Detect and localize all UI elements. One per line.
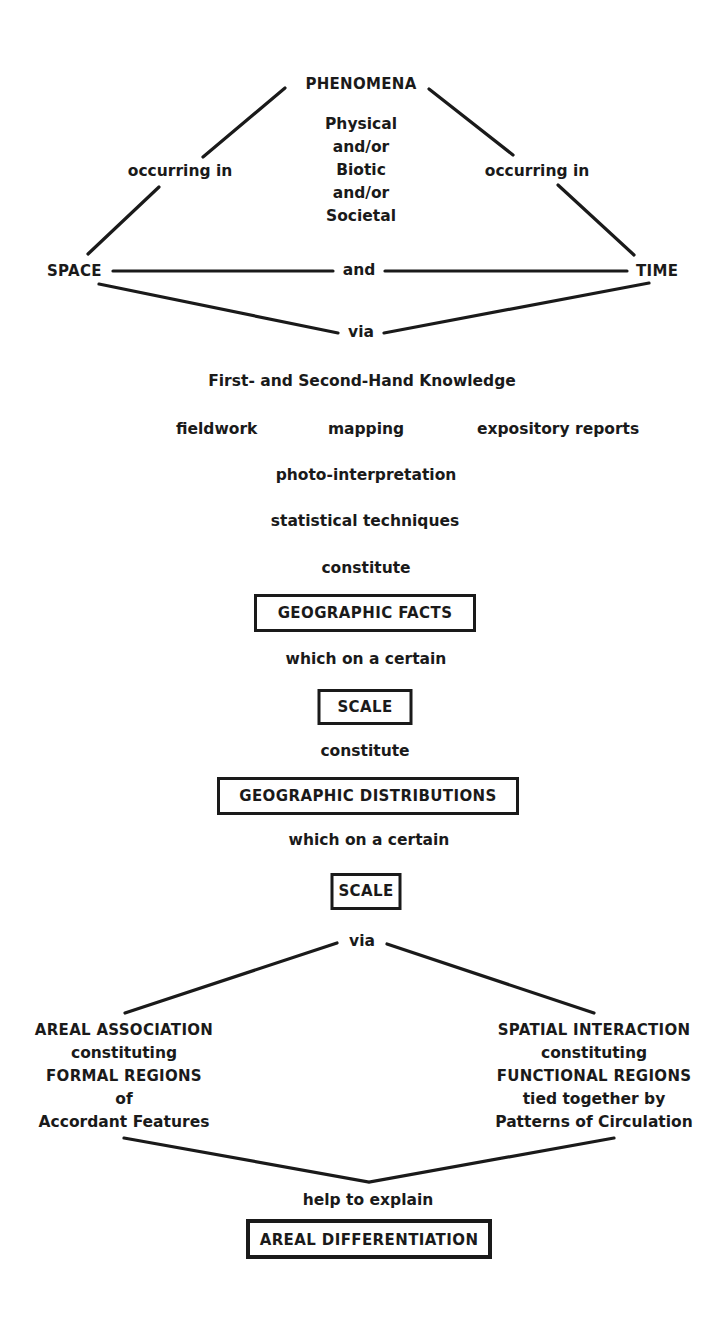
phenomena-type-biotic: Biotic — [325, 159, 397, 182]
line-occurring-left-to-space — [88, 187, 159, 254]
box-scale-2: SCALE — [331, 873, 402, 910]
node-areal-association: AREAL ASSOCIATION — [35, 1019, 213, 1042]
line-space-to-via — [99, 284, 338, 333]
phenomena-type-physical: Physical — [325, 113, 397, 136]
phenomena-type-societal: Societal — [325, 205, 397, 228]
box-areal-differentiation: AREAL DIFFERENTIATION — [246, 1219, 492, 1259]
label-occurring-in-right: occurring in — [485, 164, 590, 180]
label-which-on-a-certain-2: which on a certain — [289, 833, 450, 849]
line-time-to-via — [384, 283, 649, 333]
node-functional-regions: FUNCTIONAL REGIONS — [495, 1065, 693, 1088]
method-photo-interpretation: photo-interpretation — [276, 468, 457, 484]
phenomena-type-and-or-1: and/or — [325, 136, 397, 159]
branch-areal-association: AREAL ASSOCIATION constituting FORMAL RE… — [35, 1019, 213, 1134]
label-help-to-explain: help to explain — [303, 1193, 434, 1209]
line-occurring-right-to-time — [558, 185, 634, 255]
line-branches-to-explain — [124, 1138, 614, 1182]
label-constituting-right: constituting — [495, 1042, 693, 1065]
phenomena-types: Physical and/or Biotic and/or Societal — [325, 113, 397, 228]
box-geographic-facts: GEOGRAPHIC FACTS — [254, 594, 476, 632]
label-patterns-of-circulation: Patterns of Circulation — [495, 1111, 693, 1134]
label-via-top: via — [348, 325, 374, 341]
label-constituting-left: constituting — [35, 1042, 213, 1065]
line-via-to-spatial-interaction — [387, 944, 594, 1013]
label-tied-together-by: tied together by — [495, 1088, 693, 1111]
method-statistical-techniques: statistical techniques — [271, 514, 459, 530]
node-time: TIME — [636, 264, 678, 279]
method-fieldwork: fieldwork — [176, 422, 257, 438]
phenomena-type-and-or-2: and/or — [325, 182, 397, 205]
label-constitute-1: constitute — [321, 561, 410, 577]
line-via-to-areal-association — [125, 943, 337, 1013]
label-and: and — [343, 263, 376, 279]
method-expository-reports: expository reports — [477, 422, 639, 438]
node-formal-regions: FORMAL REGIONS — [35, 1065, 213, 1088]
label-constitute-2: constitute — [320, 744, 409, 760]
label-via-bottom: via — [349, 934, 375, 950]
branch-spatial-interaction: SPATIAL INTERACTION constituting FUNCTIO… — [495, 1019, 693, 1134]
label-of: of — [35, 1088, 213, 1111]
box-scale-1: SCALE — [318, 689, 413, 725]
label-accordant-features: Accordant Features — [35, 1111, 213, 1134]
box-geographic-distributions: GEOGRAPHIC DISTRIBUTIONS — [217, 777, 519, 815]
knowledge-title: First- and Second-Hand Knowledge — [208, 374, 516, 390]
node-space: SPACE — [47, 264, 102, 279]
node-spatial-interaction: SPATIAL INTERACTION — [495, 1019, 693, 1042]
label-occurring-in-left: occurring in — [128, 164, 233, 180]
node-phenomena: PHENOMENA — [305, 77, 416, 92]
line-phenomena-to-occurring-left — [203, 88, 285, 157]
label-which-on-a-certain-1: which on a certain — [286, 652, 447, 668]
method-mapping: mapping — [328, 422, 404, 438]
line-phenomena-to-occurring-right — [429, 89, 513, 155]
